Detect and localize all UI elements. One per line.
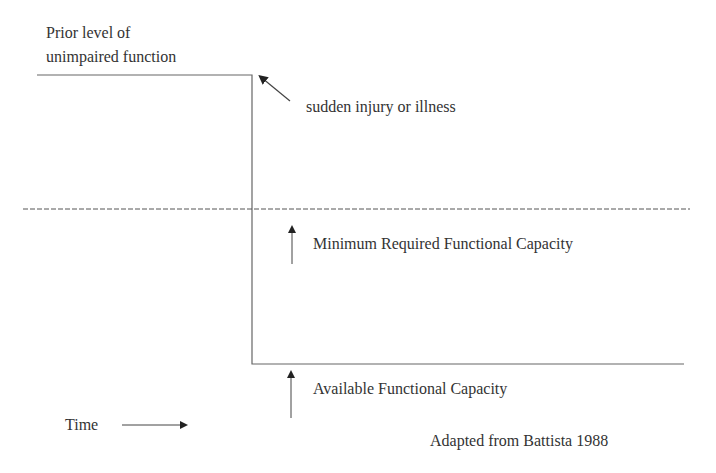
event-arrow-icon <box>262 78 290 101</box>
min-capacity-label: Minimum Required Functional Capacity <box>313 234 573 254</box>
time-label: Time <box>65 415 98 435</box>
prior-level-label-line1: Prior level of <box>46 23 130 43</box>
available-capacity-label: Available Functional Capacity <box>313 379 507 399</box>
source-label: Adapted from Battista 1988 <box>430 431 608 451</box>
prior-level-label-line2: unimpaired function <box>46 47 176 67</box>
event-label: sudden injury or illness <box>306 97 456 117</box>
function-level-line <box>37 75 684 364</box>
